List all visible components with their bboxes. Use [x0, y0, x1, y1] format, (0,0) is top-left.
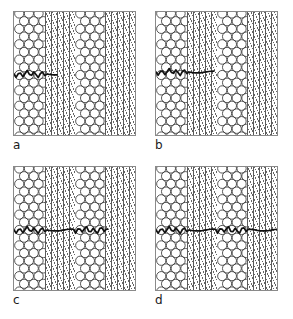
circle-grid — [14, 12, 45, 135]
panel-d — [155, 166, 278, 291]
circle-grid — [14, 167, 45, 290]
panel-c-frame — [13, 166, 136, 291]
vertical-rules — [45, 167, 75, 290]
matrix-band — [187, 167, 217, 290]
circle-grid — [217, 167, 248, 290]
panel-label-d: d — [155, 294, 163, 306]
panel-d-frame — [155, 166, 278, 291]
vertical-rules — [187, 167, 217, 290]
panel-a-bands — [14, 12, 135, 135]
panel-c — [13, 166, 136, 291]
circle-grid — [75, 167, 106, 290]
matrix-band — [247, 167, 277, 290]
circle-grid — [75, 12, 106, 135]
matrix-band — [187, 12, 217, 135]
fibre-band — [156, 12, 187, 135]
fibre-band — [75, 12, 106, 135]
composite-crack-figure: a b — [0, 0, 293, 319]
matrix-band — [105, 12, 135, 135]
panel-label-c: c — [13, 294, 20, 306]
panel-label-b: b — [155, 139, 163, 151]
vertical-rules — [45, 12, 75, 135]
fibre-band — [14, 167, 45, 290]
circle-grid — [156, 12, 187, 135]
matrix-band — [45, 12, 75, 135]
panel-label-a: a — [13, 139, 20, 151]
vertical-rules — [105, 12, 135, 135]
panel-a — [13, 11, 136, 136]
panel-b-frame — [155, 11, 278, 136]
vertical-rules — [187, 12, 217, 135]
panel-a-frame — [13, 11, 136, 136]
vertical-rules — [105, 167, 135, 290]
matrix-band — [105, 167, 135, 290]
vertical-rules — [247, 12, 277, 135]
fibre-band — [217, 167, 248, 290]
matrix-band — [247, 12, 277, 135]
fibre-band — [156, 167, 187, 290]
vertical-rules — [247, 167, 277, 290]
panel-c-bands — [14, 167, 135, 290]
panel-d-bands — [156, 167, 277, 290]
circle-grid — [217, 12, 248, 135]
circle-grid — [156, 167, 187, 290]
fibre-band — [75, 167, 106, 290]
matrix-band — [45, 167, 75, 290]
fibre-band — [14, 12, 45, 135]
panel-b — [155, 11, 278, 136]
panel-b-bands — [156, 12, 277, 135]
fibre-band — [217, 12, 248, 135]
